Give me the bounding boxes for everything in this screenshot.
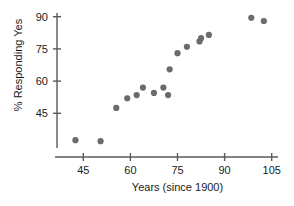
- data-point: [198, 35, 204, 41]
- x-axis-tick-label: 60: [124, 164, 136, 176]
- x-axis-tick-label: 90: [218, 164, 230, 176]
- data-point: [124, 95, 130, 101]
- data-point: [160, 84, 166, 90]
- x-axis-title: Years (since 1900): [132, 181, 223, 193]
- y-axis-tick-label: 90: [36, 11, 48, 23]
- data-point: [167, 66, 173, 72]
- y-axis-tick-label: 45: [36, 107, 48, 119]
- data-point: [140, 84, 146, 90]
- data-point: [165, 92, 171, 98]
- data-point: [248, 15, 254, 21]
- data-point: [151, 90, 157, 96]
- data-point: [72, 137, 78, 143]
- data-point: [261, 18, 267, 24]
- data-point: [97, 138, 103, 144]
- y-axis-title: % Responding Yes: [12, 18, 24, 111]
- data-point: [206, 32, 212, 38]
- scatter-plot: 4560759010545607590Years (since 1900)% R…: [0, 0, 294, 206]
- x-axis-tick-label: 45: [77, 164, 89, 176]
- data-point: [184, 44, 190, 50]
- x-axis-tick-label: 105: [263, 164, 281, 176]
- data-point: [113, 105, 119, 111]
- data-point: [174, 50, 180, 56]
- y-axis-tick-label: 75: [36, 43, 48, 55]
- x-axis-tick-label: 75: [171, 164, 183, 176]
- data-point: [134, 92, 140, 98]
- y-axis-tick-label: 60: [36, 75, 48, 87]
